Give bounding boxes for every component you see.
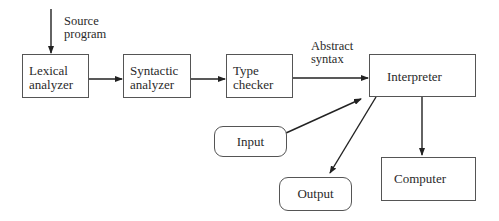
type-checker-line2: checker xyxy=(233,78,292,92)
input-label: Input xyxy=(237,135,264,149)
computer-label: Computer xyxy=(394,172,475,186)
output-label: Output xyxy=(297,187,333,201)
abstract-label-line2: syntax xyxy=(311,53,353,66)
type-checker-node: Type checker xyxy=(226,54,293,98)
arrow-input-to-interpreter xyxy=(286,99,361,133)
syntactic-line2: analyzer xyxy=(130,78,190,92)
arrow-interpreter-to-output xyxy=(330,97,376,173)
lexical-analyzer-node: Lexical analyzer xyxy=(22,54,89,98)
syntactic-line1: Syntactic xyxy=(130,64,190,78)
output-node: Output xyxy=(279,177,352,211)
computer-node: Computer xyxy=(381,157,476,201)
interpreter-node: Interpreter xyxy=(369,54,476,97)
type-checker-line1: Type xyxy=(233,64,292,78)
source-program-label: Source program xyxy=(64,15,106,41)
input-node: Input xyxy=(214,126,287,157)
interpreter-label: Interpreter xyxy=(387,70,475,84)
lexical-line2: analyzer xyxy=(29,78,88,92)
source-label-line2: program xyxy=(64,28,106,41)
abstract-syntax-label: Abstract syntax xyxy=(311,40,353,66)
syntactic-analyzer-node: Syntactic analyzer xyxy=(123,54,191,98)
lexical-line1: Lexical xyxy=(29,64,88,78)
